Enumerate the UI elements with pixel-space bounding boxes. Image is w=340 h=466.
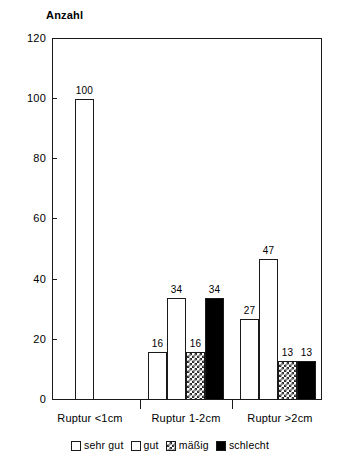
bar-chart: Anzahl 120 100 80 60 40 20 0 100 16 xyxy=(0,0,340,466)
chart-legend: sehr gut gut mäßig schlecht xyxy=(0,440,340,451)
x-axis-separator-2 xyxy=(232,400,233,409)
x-axis-label-ruptur-1-2cm: Ruptur 1-2cm xyxy=(134,412,238,424)
y-tick-label-40: 40 xyxy=(12,274,46,284)
legend-item-gut[interactable]: gut xyxy=(131,440,159,451)
bar-group-ruptur-1-2cm: 16 34 16 34 xyxy=(140,39,232,400)
bar-maessig-g3[interactable]: 13 xyxy=(278,361,297,400)
bar-sehr-gut-g2[interactable]: 16 xyxy=(148,352,167,400)
legend-swatch-icon xyxy=(71,441,81,451)
legend-swatch-icon xyxy=(131,441,141,451)
x-axis-label-ruptur-lt-1cm: Ruptur <1cm xyxy=(38,412,142,424)
legend-item-maessig[interactable]: mäßig xyxy=(166,440,209,451)
bar-value-label: 16 xyxy=(190,339,202,349)
bar-group-ruptur-gt-2cm: 27 47 13 13 xyxy=(232,39,321,400)
x-axis-label-ruptur-gt-2cm: Ruptur >2cm xyxy=(228,412,332,424)
y-tick-label-100: 100 xyxy=(12,93,46,103)
bar-value-label: 34 xyxy=(171,285,183,295)
plot-inner: 100 16 34 16 34 27 47 xyxy=(53,39,321,400)
y-tick-label-60: 60 xyxy=(12,213,46,223)
legend-label: mäßig xyxy=(179,440,209,451)
bar-gut-g3[interactable]: 47 xyxy=(259,259,278,400)
legend-label: schlecht xyxy=(229,440,269,451)
y-tick-label-80: 80 xyxy=(12,153,46,163)
legend-item-sehr-gut[interactable]: sehr gut xyxy=(71,440,124,451)
bar-schlecht-g3[interactable]: 13 xyxy=(297,361,316,400)
bar-value-label: 34 xyxy=(209,285,221,295)
bar-maessig-g2[interactable]: 16 xyxy=(186,352,205,400)
legend-label: sehr gut xyxy=(84,440,124,451)
bar-value-label: 27 xyxy=(244,306,256,316)
legend-swatch-icon xyxy=(166,441,176,451)
legend-item-schlecht[interactable]: schlecht xyxy=(216,440,269,451)
bar-gut-g2[interactable]: 34 xyxy=(167,298,186,400)
x-axis-separator-1 xyxy=(140,400,141,409)
bar-gut-g1[interactable]: 100 xyxy=(75,99,94,400)
bar-schlecht-g2[interactable]: 34 xyxy=(205,298,224,400)
y-tick-label-120: 120 xyxy=(12,33,46,43)
bar-value-label: 13 xyxy=(301,348,313,358)
legend-swatch-icon xyxy=(216,441,226,451)
bar-value-label: 13 xyxy=(282,348,294,358)
bar-value-label: 16 xyxy=(152,339,164,349)
bar-sehr-gut-g3[interactable]: 27 xyxy=(240,319,259,400)
y-tick-label-0: 0 xyxy=(12,394,46,404)
y-tick-label-20: 20 xyxy=(12,334,46,344)
bar-value-label: 47 xyxy=(263,246,275,256)
legend-label: gut xyxy=(144,440,159,451)
bar-value-label: 100 xyxy=(76,86,93,96)
bar-group-ruptur-lt-1cm: 100 xyxy=(53,39,140,400)
y-axis-title: Anzahl xyxy=(46,9,83,21)
